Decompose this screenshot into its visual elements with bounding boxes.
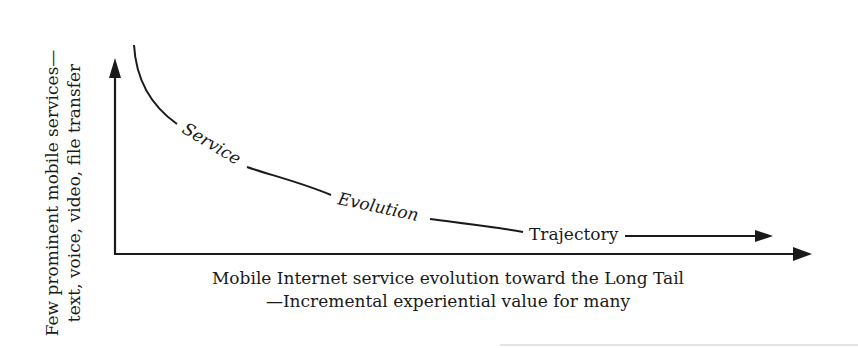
x-axis bbox=[114, 247, 812, 261]
x-axis-label-line1: Mobile Internet service evolution toward… bbox=[212, 268, 684, 288]
x-axis-label: Mobile Internet service evolution toward… bbox=[212, 268, 684, 311]
y-axis-label-line1: Few prominent mobile services— bbox=[42, 50, 62, 337]
y-axis-label: Few prominent mobile services— text, voi… bbox=[42, 50, 84, 337]
curve-label-trajectory: Trajectory bbox=[529, 224, 619, 244]
x-axis-arrow-icon bbox=[793, 247, 812, 261]
curve-label-evolution: Evolution bbox=[335, 188, 420, 225]
trajectory-arrow-icon bbox=[755, 230, 773, 242]
curve-label-service: Service bbox=[179, 118, 245, 168]
long-tail-diagram: Service Evolution Trajectory Few promine… bbox=[0, 0, 858, 348]
x-axis-label-line2: —Incremental experiential value for many bbox=[266, 291, 631, 311]
y-axis bbox=[109, 58, 121, 254]
y-axis-label-line2: text, voice, video, file transfer bbox=[64, 63, 84, 322]
y-axis-arrow-icon bbox=[109, 58, 121, 78]
